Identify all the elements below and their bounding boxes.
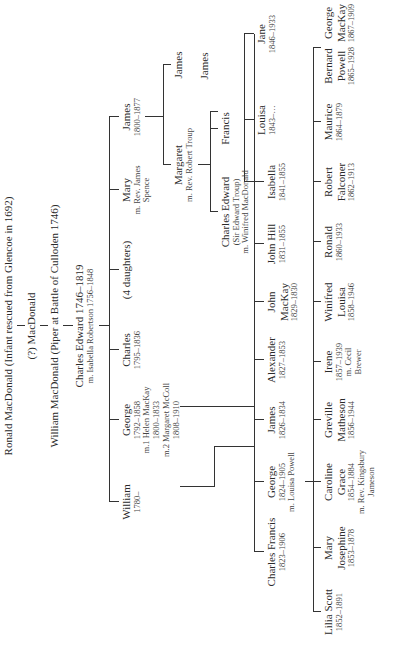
node-john-mackay: John MacKay 1829–1830 [265,272,300,332]
connector [313,121,321,122]
dates: 1800–1877 [133,82,143,152]
sibling-bar [313,48,314,612]
connector [198,164,210,165]
node-robert-falconer: Robert Falconer 1862–1913 [322,152,357,212]
connector [163,64,171,65]
name: Francis [219,101,232,156]
name: Caroline [322,442,335,522]
connector [313,481,321,482]
connector [17,325,25,326]
node-jane: Jane 1846–1933 [255,4,277,64]
connector [99,325,109,326]
name: Lilia Scott [322,580,335,644]
name: Isabella [265,152,278,212]
connector [313,547,321,548]
connector [210,211,218,212]
node-william-1780: William 1780– [120,467,142,537]
dates: 1827–1853 [278,330,288,390]
spouse: m. Isabella Robertson 1756–1848 [86,226,96,426]
node-alexander: Alexander 1827–1853 [265,330,287,390]
dates: 1831–1855 [278,214,288,274]
name: William [120,467,133,537]
node-ronald: Ronald 1860–1933 [322,212,344,272]
spouse-cont: Spence [142,150,152,230]
name: Charles Francis [265,512,278,592]
node-george-mackay-1867: George MacKay 1867–1909 [322,0,357,46]
connector [313,301,321,302]
name: Charles Edward [219,152,232,272]
name: Ronald [322,212,335,272]
dates: 1852–1891 [335,580,345,644]
node-caroline-grace: Caroline Grace 1854–1884 m. Rev. Kingsbu… [322,442,377,522]
node-maurice: Maurice 1864–1879 [322,92,344,152]
node-isabella: Isabella 1841–1855 [265,152,287,212]
node-unknown-macdonald: (?) MacDonald [25,226,38,426]
spouse: m. Winifred MacDonald [241,152,251,272]
spouse-cont: Jameson [367,442,377,522]
name: Irene [322,332,335,392]
connector [244,33,254,34]
dates: 1795–1836 [133,315,143,385]
name: William MacDonald (Piper at Battle of Cu… [48,126,61,526]
node-irene: Irene 1857–1939 m. Cecil Brewer [322,332,364,392]
connector [244,181,264,182]
node-charles-1795: Charles 1795–1836 [120,315,142,385]
connector [210,128,218,129]
name: Margaret [172,105,185,225]
name: (4 daughters) [120,225,133,315]
connector [254,359,264,360]
name: Charles Edward 1746–1819 [73,226,86,426]
name: Charles [120,315,133,385]
dates: 1823–1906 [278,512,288,592]
connector [254,481,264,482]
connector [109,269,119,270]
name: James [172,35,185,95]
node-charles-francis: Charles Francis 1823–1906 [265,512,287,592]
name: John Hill [265,214,278,274]
dates: 1841–1855 [278,152,288,212]
name: Mary [120,150,133,230]
connector [313,47,321,48]
connector [305,481,313,482]
connector [214,446,254,447]
node-winifred-louisa: Winifred Louisa 1858–1946 [322,272,357,332]
dates: 1843–… [268,90,278,150]
dates: 1862–1913 [347,152,357,212]
name: Alexander [265,330,278,390]
connector [109,501,119,502]
node-george-1792: George 1792–1858 m.1 Helen MacKay 1800–1… [120,375,181,465]
name: George [265,442,278,522]
connector [180,486,214,487]
dates: 1780– [133,467,143,537]
connector [210,111,218,112]
node-mary: Mary m. Rev. James Spence [120,150,152,230]
connector [63,325,73,326]
connector [254,301,264,302]
node-four-daughters: (4 daughters) [120,225,133,315]
connector [244,119,254,120]
connector [254,419,264,420]
name: James [198,36,211,96]
dates: 1864–1879 [335,92,345,152]
node-mary-josephine: Mary Josephine 1853–1878 [322,516,357,580]
dates: 1829–1830 [290,272,300,332]
connector [313,181,321,182]
node-charles-edward-1746: Charles Edward 1746–1819 m. Isabella Rob… [73,226,95,426]
connector [254,551,264,552]
node-francis: Francis [219,101,232,156]
name: Winifred [322,272,335,332]
node-john-hill: John Hill 1831–1855 [265,214,287,274]
name: Ronald MacDonald (Infant rescued from Gl… [2,126,15,526]
connector [313,611,321,612]
node-ronald-macdonald: Ronald MacDonald (Infant rescued from Gl… [2,126,15,526]
connector [313,361,321,362]
name: (?) MacDonald [25,226,38,426]
node-charles-edward-troup: Charles Edward (Sir Edward Troup) m. Win… [219,152,251,272]
connector [313,419,321,420]
dates: 1856–1944 [347,390,357,450]
name: James [265,390,278,450]
node-james-1800: James 1800–1877 [120,82,142,152]
dates: 1846–1933 [268,4,278,64]
node-louisa: Louisa 1843–… [255,90,277,150]
spouse-2-dates: 1808–1910 [172,375,182,465]
